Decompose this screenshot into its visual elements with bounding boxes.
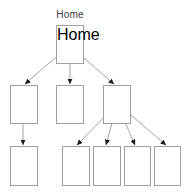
node-box-leaf-3[interactable] <box>93 146 121 186</box>
node-box-leaf-5[interactable] <box>154 146 181 186</box>
node-box-child-3[interactable] <box>103 85 131 124</box>
edge-layer <box>23 46 166 145</box>
node-box-leaf-4[interactable] <box>124 146 151 186</box>
node-box-child-1[interactable] <box>10 85 38 124</box>
node-box-root[interactable]: Home <box>56 25 84 64</box>
sitemap-diagram: Home Home <box>0 0 184 193</box>
node-box-leaf-1[interactable] <box>10 146 38 186</box>
page-title: Home <box>56 9 84 21</box>
node-box-label: Home <box>57 26 100 43</box>
node-box-leaf-2[interactable] <box>62 146 90 186</box>
node-box-child-2[interactable] <box>56 85 84 124</box>
